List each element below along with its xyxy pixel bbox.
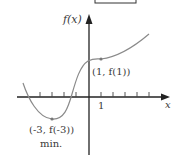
x-axis-label: x — [165, 99, 171, 110]
x-tick-label-1: 1 — [98, 100, 104, 111]
x-axis — [17, 92, 170, 101]
function-graph: f(x) x 1 (1, f(1)) (-3, f(-3)) min. — [0, 0, 181, 162]
point-1-f1 — [99, 57, 102, 60]
point-min — [50, 117, 53, 120]
min-sublabel: min. — [40, 138, 62, 149]
y-axis-arrow-icon — [86, 14, 93, 24]
y-axis-label: f(x) — [62, 13, 82, 26]
y-axis — [86, 14, 93, 155]
top-box — [95, 0, 136, 3]
min-point-label: (-3, f(-3)) — [29, 124, 74, 135]
point-1-label: (1, f(1)) — [92, 66, 130, 77]
x-axis-ticks — [40, 92, 149, 97]
